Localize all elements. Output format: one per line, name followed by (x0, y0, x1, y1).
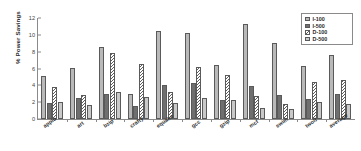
bar (231, 100, 236, 119)
x-axis-label: gcc (190, 118, 201, 128)
bar (144, 97, 149, 119)
legend-item[interactable]: D-500 (305, 36, 350, 43)
legend-item[interactable]: I-500 (305, 23, 350, 30)
x-label-slot: mcf (239, 121, 268, 151)
bar (306, 99, 311, 119)
bar (260, 108, 265, 119)
legend-label: I-500 (313, 23, 325, 30)
x-label-slot: art (66, 121, 95, 151)
bar (110, 53, 115, 119)
x-axis-labels: appluartbzipcraftyequakegccgzipmcfswimtw… (37, 121, 355, 151)
x-label-slot: applu (37, 121, 66, 151)
bar (58, 102, 63, 119)
bar-group (38, 18, 67, 119)
bar-group (96, 18, 125, 119)
bar (185, 33, 190, 119)
x-label-slot: average (326, 121, 355, 151)
bar (225, 75, 230, 119)
bar (87, 105, 92, 119)
bar-group (182, 18, 211, 119)
y-axis-title: % Power Savings (14, 0, 21, 81)
y-tick-label: 12 (29, 15, 38, 21)
bar (312, 82, 317, 119)
bar (249, 86, 254, 119)
bar-group (240, 18, 269, 119)
x-axis-label: art (76, 120, 85, 129)
chart-legend: I-100I-500D-100D-500 (301, 13, 353, 45)
bar (196, 67, 201, 119)
bar (289, 109, 294, 119)
bar (162, 85, 167, 120)
y-tick-label: 10 (29, 32, 38, 38)
legend-item[interactable]: D-100 (305, 29, 350, 36)
bar (220, 100, 225, 119)
bar (116, 92, 121, 119)
bar (128, 94, 133, 119)
x-label-slot: swim (268, 121, 297, 151)
x-label-slot: gcc (182, 121, 211, 151)
x-label-slot: gzip (210, 121, 239, 151)
legend-swatch-icon (305, 30, 310, 34)
bar (243, 24, 248, 119)
bar-group (124, 18, 153, 119)
legend-swatch-icon (305, 24, 310, 28)
legend-item[interactable]: I-100 (305, 16, 350, 23)
bar-group (67, 18, 96, 119)
bar (104, 94, 109, 119)
legend-label: D-500 (313, 36, 328, 43)
x-label-slot: crafty (124, 121, 153, 151)
bar (70, 68, 75, 119)
bar (272, 43, 277, 119)
bar (41, 76, 46, 119)
bar (202, 98, 207, 119)
bar-group (153, 18, 182, 119)
legend-swatch-icon (305, 37, 310, 41)
bar (191, 83, 196, 119)
legend-swatch-icon (305, 17, 310, 21)
bar (317, 102, 322, 119)
bar (52, 87, 57, 119)
x-label-slot: twolf (297, 121, 326, 151)
x-label-slot: bzip (95, 121, 124, 151)
bar (139, 64, 144, 119)
bar (156, 31, 161, 119)
bar-group (211, 18, 240, 119)
bar-group (269, 18, 298, 119)
legend-label: I-100 (313, 16, 325, 23)
x-label-slot: equake (153, 121, 182, 151)
legend-label: D-100 (313, 29, 328, 36)
bar (277, 95, 282, 119)
bar (329, 55, 334, 119)
bar (214, 65, 219, 119)
bar (99, 47, 104, 119)
bar (254, 96, 259, 119)
bar (76, 98, 81, 119)
bar (301, 66, 306, 119)
bar (81, 95, 86, 119)
power-savings-bar-chart: % Power Savings 024681012 appluartbzipcr… (0, 0, 361, 151)
